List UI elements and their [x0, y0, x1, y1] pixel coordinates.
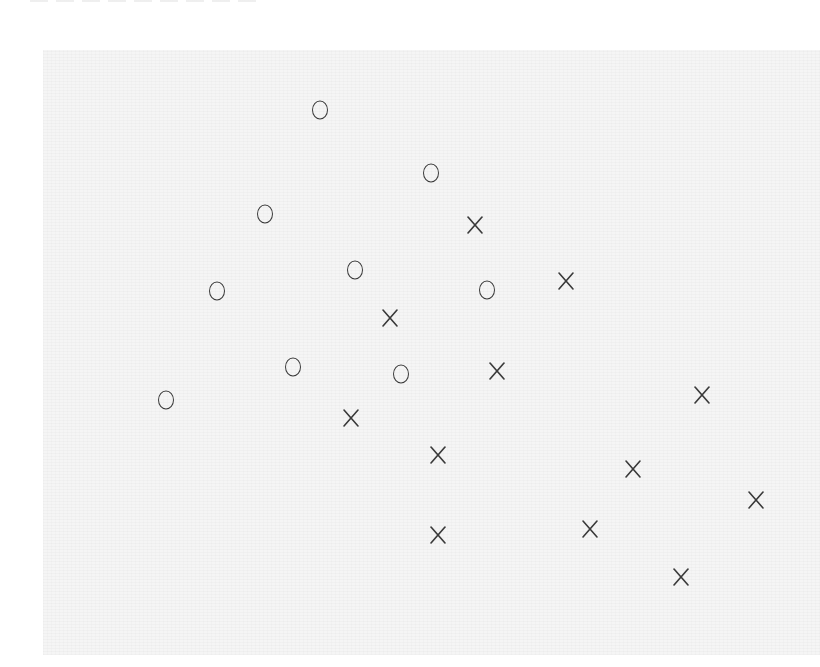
x-marker-icon — [429, 446, 447, 465]
circle-marker-icon — [158, 391, 174, 410]
x-marker-icon — [488, 362, 506, 381]
x-marker-icon — [557, 272, 575, 291]
x-marker-icon — [581, 520, 599, 539]
circle-marker-icon — [312, 101, 328, 120]
circle-marker-icon — [423, 164, 439, 183]
x-marker-icon — [381, 309, 399, 328]
circle-marker-icon — [393, 365, 409, 384]
scatter-plot-area — [43, 50, 820, 655]
x-marker-icon — [342, 409, 360, 428]
circle-marker-icon — [479, 281, 495, 300]
circle-marker-icon — [285, 358, 301, 377]
clipped-header-text — [30, 0, 260, 2]
x-marker-icon — [672, 568, 690, 587]
x-marker-icon — [429, 526, 447, 545]
x-marker-icon — [693, 386, 711, 405]
circle-marker-icon — [347, 261, 363, 280]
x-marker-icon — [624, 460, 642, 479]
circle-marker-icon — [209, 282, 225, 301]
x-marker-icon — [466, 216, 484, 235]
circle-marker-icon — [257, 205, 273, 224]
x-marker-icon — [747, 491, 765, 510]
